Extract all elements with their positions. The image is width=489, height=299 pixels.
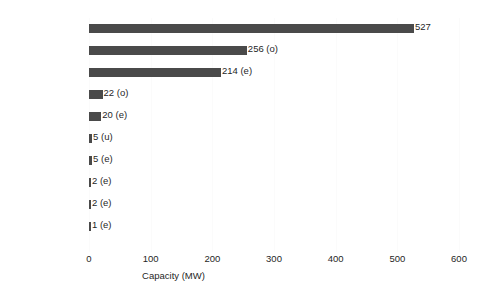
x-tick-label: 500 [389, 252, 405, 266]
bar-value-label: 20 (e) [102, 108, 127, 122]
bar-row: World527 [89, 18, 459, 40]
bar [89, 156, 92, 165]
bar-value-label: 5 (e) [93, 152, 113, 166]
bar [89, 46, 247, 55]
bar [89, 134, 92, 143]
x-tick-label: 300 [266, 252, 282, 266]
bar [89, 222, 91, 231]
x-tick-label: 600 [451, 252, 467, 266]
plot-area: World527South Korea256 (o)France214 (e)U… [89, 18, 459, 252]
bar-value-label: 1 (e) [92, 218, 112, 232]
bar-row: Netherlands2 (e) [89, 194, 459, 216]
bar [89, 178, 91, 187]
bar-value-label: 256 (o) [248, 42, 278, 56]
bar-row: Australia1 (e) [89, 216, 459, 238]
bar-value-label: 5 (u) [93, 130, 113, 144]
x-axis-title: Capacity (MW) [0, 269, 489, 283]
bar [89, 24, 414, 33]
bar-row: UK22 (o) [89, 84, 459, 106]
gridline-600 [459, 18, 460, 252]
bar-value-label: 22 (o) [104, 86, 129, 100]
bar-value-label: 2 (e) [92, 196, 112, 210]
bar-value-label: 527 [415, 20, 431, 34]
bar-chart: World527South Korea256 (o)France214 (e)U… [0, 0, 489, 299]
bar [89, 200, 91, 209]
bar-value-label: 2 (e) [92, 174, 112, 188]
x-tick-label: 100 [143, 252, 159, 266]
x-tick-label: 0 [86, 252, 91, 266]
bar-row: Russia2 (e) [89, 172, 459, 194]
bar-value-label: 214 (e) [222, 64, 252, 78]
x-tick-label: 400 [328, 252, 344, 266]
bar-row: France214 (e) [89, 62, 459, 84]
bar-row: China5 (u) [89, 128, 459, 150]
x-tick-label: 200 [204, 252, 220, 266]
x-axis-title-label: Capacity (MW) [142, 270, 205, 281]
bar-row: Spain5 (e) [89, 150, 459, 172]
bar-row: Canada20 (e) [89, 106, 459, 128]
bar-row: South Korea256 (o) [89, 40, 459, 62]
bar [89, 112, 101, 121]
bar [89, 90, 103, 99]
bar [89, 68, 221, 77]
